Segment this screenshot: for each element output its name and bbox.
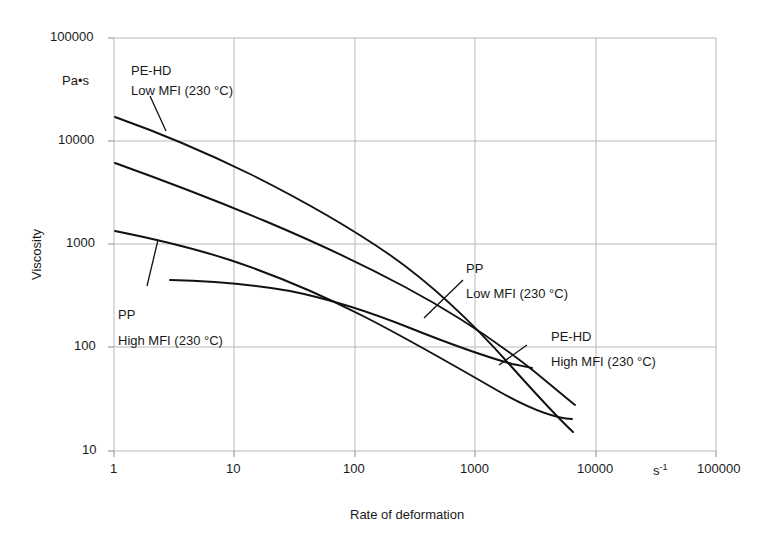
x-tick-label-100000: 100000 — [697, 462, 740, 477]
x-tick-label-1: 1 — [110, 462, 117, 477]
y-tick-label-1000: 1000 — [66, 236, 95, 251]
x-tick-label-10: 10 — [226, 462, 240, 477]
series-label-pp-low-mfi-line1: PP — [466, 262, 483, 277]
series-label-pehd-high-mfi-line2: High MFI (230 °C) — [551, 355, 656, 370]
series-label-pp-high-mfi-line1: PP — [118, 308, 135, 323]
x-axis-title: Rate of deformation — [350, 508, 464, 523]
viscosity-shear-rate-chart: 100000 10000 1000 100 10 Pa•s Viscosity … — [0, 0, 763, 548]
y-tick-label-100: 100 — [74, 339, 96, 354]
y-axis-title: Viscosity — [30, 229, 45, 280]
y-tick-label-100000: 100000 — [50, 30, 93, 45]
series-label-pp-high-mfi-line2: High MFI (230 °C) — [118, 334, 223, 349]
series-label-pehd-low-mfi-line2: Low MFI (230 °C) — [131, 84, 233, 99]
x-axis-unit-label: s-1 — [653, 462, 668, 479]
x-tick-label-100: 100 — [343, 462, 365, 477]
x-tick-label-10000: 10000 — [577, 462, 613, 477]
y-tick-label-10000: 10000 — [58, 133, 94, 148]
x-tick-label-1000: 1000 — [460, 462, 489, 477]
series-label-pehd-high-mfi-line1: PE-HD — [551, 330, 591, 345]
y-axis-unit-label: Pa•s — [62, 74, 89, 89]
y-tick-label-10: 10 — [82, 443, 96, 458]
x-axis-unit-exponent: -1 — [660, 462, 668, 472]
series-label-pehd-low-mfi-line1: PE-HD — [131, 64, 171, 79]
series-label-pp-low-mfi-line2: Low MFI (230 °C) — [466, 287, 568, 302]
